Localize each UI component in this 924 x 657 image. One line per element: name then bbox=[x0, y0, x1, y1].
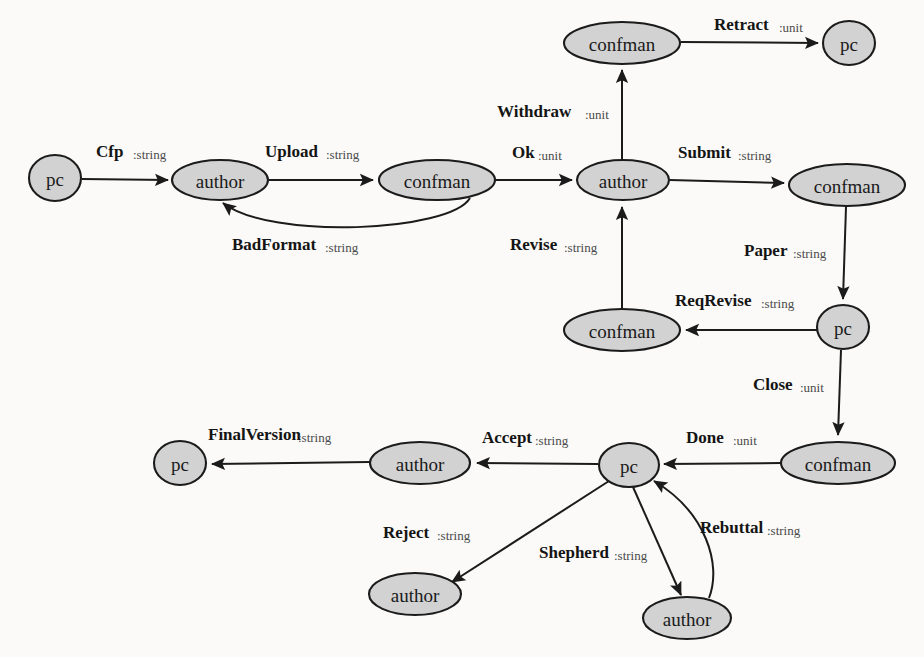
edge-close-line bbox=[838, 350, 841, 435]
node-label: confman bbox=[589, 34, 656, 55]
edge-type: :unit bbox=[733, 433, 757, 448]
edge-label-finalversion: FinalVersion:string bbox=[208, 425, 332, 445]
diagram-canvas: pcauthorconfmanauthorconfmanpcconfmanpcc… bbox=[0, 0, 924, 657]
edges-layer bbox=[82, 42, 846, 598]
edge-type: :string bbox=[793, 246, 827, 261]
edge-type: :string bbox=[326, 147, 360, 162]
edge-cfp-line bbox=[82, 179, 168, 180]
node-label: author bbox=[599, 171, 648, 192]
node-label: author bbox=[396, 454, 445, 475]
edge-type: :unit bbox=[779, 20, 803, 35]
edge-name: Submit bbox=[678, 143, 731, 162]
edge-paper-line bbox=[843, 207, 846, 299]
edge-type: :unit bbox=[538, 148, 562, 163]
edge-name: Shepherd bbox=[539, 543, 609, 562]
node-pc-retract[interactable]: pc bbox=[823, 21, 875, 65]
edge-label-cfp: Cfp:string bbox=[96, 142, 167, 162]
edge-label-withdraw: Withdraw:unit bbox=[497, 102, 609, 122]
edge-type: :string bbox=[738, 148, 772, 163]
edge-submit-line bbox=[670, 180, 784, 183]
edge-type: :unit bbox=[585, 107, 609, 122]
node-confman-retract[interactable]: confman bbox=[564, 22, 680, 64]
node-label: confman bbox=[589, 321, 656, 342]
edge-shepherd-line bbox=[633, 487, 681, 595]
edge-label-retract: Retract:unit bbox=[714, 15, 803, 35]
edge-label-badformat: BadFormat:string bbox=[232, 235, 359, 255]
node-pc-paper[interactable]: pc bbox=[817, 305, 869, 349]
node-confman-submit[interactable]: confman bbox=[789, 164, 905, 206]
edge-name: Close bbox=[753, 375, 793, 394]
node-pc-final[interactable]: pc bbox=[154, 441, 206, 485]
node-author-reject[interactable]: author bbox=[369, 573, 461, 615]
node-label: author bbox=[196, 171, 245, 192]
edge-name: Paper bbox=[744, 241, 788, 260]
edge-type: :string bbox=[298, 430, 332, 445]
node-confman-done[interactable]: confman bbox=[781, 442, 895, 484]
edge-name: Reject bbox=[383, 523, 430, 542]
node-pc-cfp[interactable]: pc bbox=[29, 155, 81, 201]
edge-retract-line bbox=[681, 42, 818, 43]
edge-done-line bbox=[664, 463, 781, 464]
node-confman-revise[interactable]: confman bbox=[564, 309, 680, 351]
node-label: confman bbox=[404, 171, 471, 192]
edge-type: :string bbox=[535, 433, 569, 448]
edge-name: FinalVersion bbox=[208, 425, 301, 444]
edge-name: BadFormat bbox=[232, 235, 316, 254]
node-confman-ok[interactable]: confman bbox=[379, 160, 495, 200]
edge-name: Cfp bbox=[96, 142, 123, 161]
node-label: pc bbox=[46, 169, 64, 190]
edge-label-done: Done:unit bbox=[686, 428, 757, 448]
node-label: pc bbox=[834, 318, 852, 339]
edge-labels-layer: Cfp:stringUpload:stringBadFormat:stringO… bbox=[96, 15, 827, 563]
edge-accept-line bbox=[477, 463, 598, 464]
edge-label-accept: Accept:string bbox=[482, 428, 569, 448]
edge-name: ReqRevise bbox=[675, 291, 752, 310]
node-label: confman bbox=[805, 454, 872, 475]
node-label: confman bbox=[814, 176, 881, 197]
node-author-main[interactable]: author bbox=[577, 160, 669, 200]
node-label: pc bbox=[620, 456, 638, 477]
node-pc-decision[interactable]: pc bbox=[599, 443, 659, 487]
edge-finalversion-line bbox=[212, 462, 369, 464]
edge-reject-line bbox=[452, 481, 609, 582]
edge-type: :string bbox=[761, 296, 795, 311]
node-author-accept[interactable]: author bbox=[370, 442, 470, 484]
edge-label-ok: Ok:unit bbox=[512, 143, 562, 163]
edge-label-rebuttal: Rebuttal:string bbox=[700, 518, 801, 538]
edge-name: Rebuttal bbox=[700, 518, 764, 537]
edge-name: Upload bbox=[265, 142, 318, 161]
edge-label-shepherd: Shepherd:string bbox=[539, 543, 648, 563]
edge-label-submit: Submit:string bbox=[678, 143, 772, 163]
edge-type: :string bbox=[437, 528, 471, 543]
edge-type: :string bbox=[325, 240, 359, 255]
edge-label-revise: Revise:string bbox=[510, 235, 598, 255]
edge-type: :string bbox=[564, 240, 598, 255]
edge-type: :string bbox=[767, 523, 801, 538]
edge-type: :string bbox=[133, 147, 167, 162]
edge-label-reqrevise: ReqRevise:string bbox=[675, 291, 795, 311]
state-diagram: pcauthorconfmanauthorconfmanpcconfmanpcc… bbox=[0, 0, 924, 657]
edge-name: Withdraw bbox=[497, 102, 572, 121]
edge-name: Retract bbox=[714, 15, 769, 34]
node-author-upload[interactable]: author bbox=[172, 160, 268, 200]
edge-name: Revise bbox=[510, 235, 558, 254]
edge-type: :string bbox=[614, 548, 648, 563]
edge-name: Accept bbox=[482, 428, 532, 447]
edge-rebuttal-line bbox=[654, 481, 713, 598]
node-label: author bbox=[391, 585, 440, 606]
edge-name: Done bbox=[686, 428, 724, 447]
edge-label-close: Close:unit bbox=[753, 375, 824, 395]
node-label: pc bbox=[840, 34, 858, 55]
edge-label-upload: Upload:string bbox=[265, 142, 360, 162]
edge-label-reject: Reject:string bbox=[383, 523, 471, 543]
node-label: author bbox=[663, 609, 712, 630]
edge-label-paper: Paper:string bbox=[744, 241, 827, 261]
edge-name: Ok bbox=[512, 143, 535, 162]
node-label: pc bbox=[171, 454, 189, 475]
edge-type: :unit bbox=[800, 380, 824, 395]
node-author-shepherd[interactable]: author bbox=[643, 597, 731, 639]
edge-badformat-line bbox=[223, 198, 470, 227]
